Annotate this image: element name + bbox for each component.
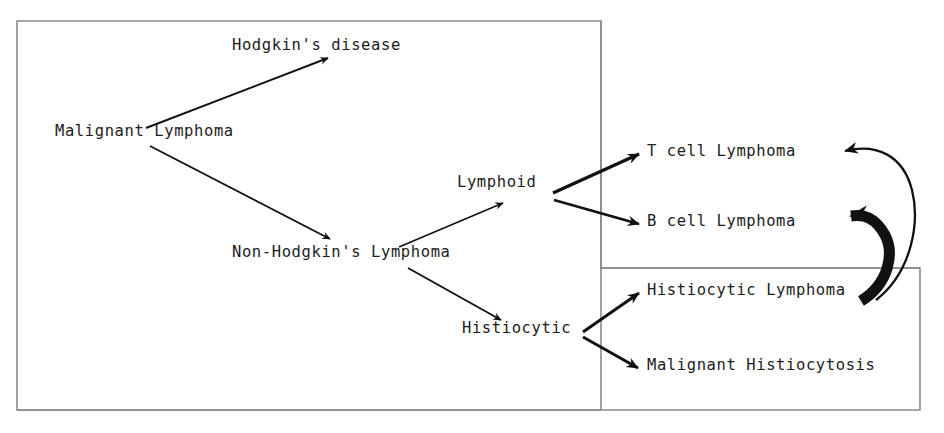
edge-lymphoid-to-bcell xyxy=(554,200,639,224)
edge-nonhodgkins-to-lymphoid xyxy=(399,203,503,247)
node-non-hodgkins-lymphoma: Non-Hodgkin's Lymphoma xyxy=(232,245,451,261)
node-b-cell-lymphoma: B cell Lymphoma xyxy=(647,214,796,230)
outer-frame xyxy=(17,21,601,410)
edge-malignant-to-nonhodgkins xyxy=(150,146,330,239)
lymphoma-classification-diagram: Hodgkin's disease Malignant Lymphoma Non… xyxy=(0,0,944,433)
node-malignant-lymphoma: Malignant Lymphoma xyxy=(55,124,234,140)
node-malignant-histiocytosis: Malignant Histiocytosis xyxy=(647,358,875,374)
node-lymphoid: Lymphoid xyxy=(457,175,536,191)
node-histiocytic-lymphoma: Histiocytic Lymphoma xyxy=(647,283,846,299)
edges-curved-group xyxy=(845,149,915,301)
edge-lymphoid-to-tcell xyxy=(553,154,639,193)
edges-thin-group xyxy=(146,58,503,320)
edge-histiocytic-to-malignant-histiocytosis xyxy=(583,337,638,368)
node-histiocytic: Histiocytic xyxy=(462,321,571,337)
node-t-cell-lymphoma: T cell Lymphoma xyxy=(647,144,796,160)
edge-nonhodgkins-to-histiocytic xyxy=(408,268,501,320)
edge-malignant-to-hodgkins xyxy=(146,58,328,128)
edge-histiocytic-to-histiocytic-lymphoma xyxy=(583,293,639,332)
curved-arrow-to-bcell xyxy=(851,216,889,301)
node-hodgkins-disease: Hodgkin's disease xyxy=(232,38,401,54)
